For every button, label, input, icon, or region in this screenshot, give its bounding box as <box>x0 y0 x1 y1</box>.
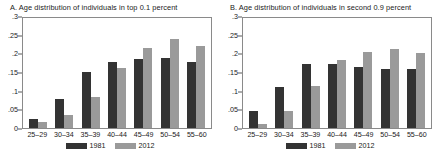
panel-b: B. Age distribution of individuals in se… <box>220 0 440 164</box>
legend-item-1981: 1981 <box>286 142 326 150</box>
y-tick-label: .15 <box>8 69 18 76</box>
legend-item-2012: 2012 <box>115 142 155 150</box>
bar-group <box>130 18 156 128</box>
bar-2012-45–49 <box>143 48 152 128</box>
legend-item-1981: 1981 <box>66 142 106 150</box>
x-tick-label: 35–39 <box>77 130 104 140</box>
bar-1981-35–39 <box>302 64 311 128</box>
bar-group <box>350 18 376 128</box>
panel-a-legend: 1981 2012 <box>0 142 220 150</box>
legend-swatch-2012 <box>335 143 356 149</box>
bar-group <box>25 18 51 128</box>
x-tick-label: 55–60 <box>183 130 210 140</box>
bar-1981-50–54 <box>161 58 170 128</box>
panel-a-plot: 0.05.1.15.2.25.3 <box>0 17 220 129</box>
legend-label-1981: 1981 <box>90 142 106 150</box>
bar-group <box>403 18 429 128</box>
bar-1981-45–49 <box>354 67 363 128</box>
x-tick-label: 35–39 <box>297 130 324 140</box>
legend-swatch-1981 <box>66 143 87 149</box>
bar-1981-45–49 <box>134 59 143 128</box>
figure-container: A. Age distribution of individuals in to… <box>0 0 440 164</box>
bar-2012-55–60 <box>196 46 205 129</box>
bar-2012-35–39 <box>311 86 320 128</box>
bar-2012-40–44 <box>337 60 346 128</box>
bar-1981-25–29 <box>249 111 258 128</box>
bar-2012-25–29 <box>258 124 267 128</box>
panel-b-title: B. Age distribution of individuals in se… <box>230 3 440 12</box>
x-tick-label: 50–54 <box>157 130 184 140</box>
x-tick-label: 40–44 <box>104 130 131 140</box>
panel-a-y-axis: 0.05.1.15.2.25.3 <box>0 17 22 129</box>
x-tick-label: 30–34 <box>271 130 298 140</box>
x-tick-label: 45–49 <box>350 130 377 140</box>
bar-group <box>104 18 130 128</box>
bar-2012-55–60 <box>416 53 425 128</box>
bar-2012-50–54 <box>170 39 179 128</box>
legend-swatch-1981 <box>286 143 307 149</box>
panel-b-legend: 1981 2012 <box>220 142 440 150</box>
y-tick-label: .25 <box>8 32 18 39</box>
x-tick-label: 25–29 <box>244 130 271 140</box>
bar-1981-40–44 <box>108 62 117 128</box>
panel-a-plot-area <box>22 17 212 129</box>
bar-group <box>298 18 324 128</box>
bar-2012-40–44 <box>117 68 126 128</box>
bar-1981-50–54 <box>381 69 390 128</box>
panel-b-y-axis: 0.05.1.15.2.25.3 <box>220 17 242 129</box>
x-tick-label: 55–60 <box>403 130 430 140</box>
bar-group <box>156 18 182 128</box>
bar-1981-30–34 <box>55 99 64 128</box>
x-tick-label: 50–54 <box>377 130 404 140</box>
bar-2012-35–39 <box>91 97 100 128</box>
legend-label-1981: 1981 <box>310 142 326 150</box>
bar-group <box>271 18 297 128</box>
bar-group <box>376 18 402 128</box>
legend-label-2012: 2012 <box>359 142 375 150</box>
bar-2012-50–54 <box>390 49 399 128</box>
bar-group <box>245 18 271 128</box>
panel-a: A. Age distribution of individuals in to… <box>0 0 220 164</box>
x-tick-label: 30–34 <box>51 130 78 140</box>
y-tick-label: .15 <box>228 69 238 76</box>
bar-group <box>51 18 77 128</box>
bar-group <box>78 18 104 128</box>
bar-1981-55–60 <box>187 62 196 128</box>
y-tick-label: .05 <box>228 107 238 114</box>
panel-b-plot: 0.05.1.15.2.25.3 <box>220 17 440 129</box>
y-tick-label: .25 <box>228 32 238 39</box>
bar-2012-45–49 <box>363 52 372 128</box>
x-tick-label: 25–29 <box>24 130 51 140</box>
panel-b-bar-groups <box>243 18 431 128</box>
legend-item-2012: 2012 <box>335 142 375 150</box>
panel-b-plot-area <box>242 17 432 129</box>
bar-group <box>183 18 209 128</box>
bar-1981-40–44 <box>328 64 337 128</box>
bar-1981-25–29 <box>29 119 38 128</box>
x-tick-label: 45–49 <box>130 130 157 140</box>
panel-b-x-axis: 25–2930–3435–3940–4445–4950–5455–60 <box>242 130 432 140</box>
legend-label-2012: 2012 <box>139 142 155 150</box>
bar-2012-30–34 <box>284 111 293 128</box>
legend-swatch-2012 <box>115 143 136 149</box>
bar-group <box>324 18 350 128</box>
panel-a-title: A. Age distribution of individuals in to… <box>10 3 220 12</box>
bar-1981-55–60 <box>407 69 416 128</box>
bar-1981-35–39 <box>82 72 91 128</box>
bar-1981-30–34 <box>275 87 284 128</box>
bar-2012-25–29 <box>38 122 47 128</box>
panel-a-bar-groups <box>23 18 211 128</box>
bar-2012-30–34 <box>64 115 73 128</box>
y-tick-label: .05 <box>8 107 18 114</box>
x-tick-label: 40–44 <box>324 130 351 140</box>
panel-a-x-axis: 25–2930–3435–3940–4445–4950–5455–60 <box>22 130 212 140</box>
